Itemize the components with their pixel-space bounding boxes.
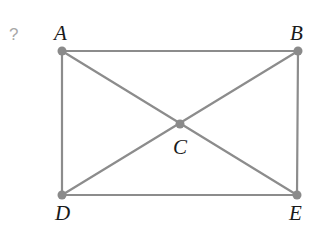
label-d: D — [54, 201, 70, 225]
vertex-a — [58, 47, 67, 56]
label-a: A — [52, 21, 67, 45]
question-marker: ? — [9, 25, 18, 44]
vertex-b — [294, 47, 303, 56]
rectangle-diagram: ? A B C D E — [0, 0, 325, 226]
label-b: B — [290, 21, 303, 45]
edge-be — [297, 51, 298, 195]
label-e: E — [288, 201, 302, 225]
vertex-c — [176, 120, 185, 129]
vertex-d — [58, 191, 67, 200]
vertex-e — [293, 191, 302, 200]
label-c: C — [173, 135, 188, 159]
